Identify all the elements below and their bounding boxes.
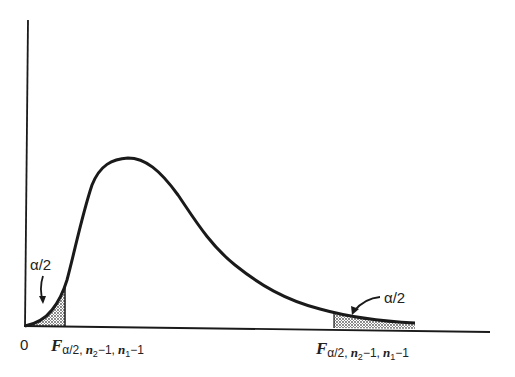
density-curve <box>25 158 415 326</box>
f-symbol: F <box>50 336 63 355</box>
f-symbol: F <box>315 339 328 358</box>
origin-label: 0 <box>20 336 28 353</box>
subscript-minus-one-end: −1 <box>395 346 409 360</box>
subscript-minus-one: −1, <box>363 346 380 360</box>
left-arrowhead-icon <box>39 296 46 304</box>
y-axis <box>25 20 28 327</box>
left-critical-value-label: Fα/2,n2−1,n1−1 <box>50 336 144 359</box>
subscript-n2: n <box>351 345 358 360</box>
subscript-minus-one-end: −1 <box>130 343 144 357</box>
subscript-n1: n <box>118 342 125 357</box>
left-tail-shaded-region <box>26 287 65 327</box>
svg-text:Fα/2,n2−1,n1−1: Fα/2,n2−1,n1−1 <box>50 336 144 359</box>
subscript-minus-one: −1, <box>98 343 115 357</box>
x-axis <box>24 326 490 332</box>
f-distribution-diagram: α/2 α/2 0 Fα/2,n2−1,n1−1 Fα/2,n2−1,n1−1 <box>0 0 515 377</box>
subscript-n2: n <box>86 342 93 357</box>
right-tail-area-label: α/2 <box>384 289 405 306</box>
subscript-n1: n <box>383 345 390 360</box>
right-critical-value-label: Fα/2,n2−1,n1−1 <box>315 339 409 362</box>
subscript-alpha: α/2, <box>327 346 347 360</box>
left-tail-area-label: α/2 <box>30 256 51 273</box>
svg-text:Fα/2,n2−1,n1−1: Fα/2,n2−1,n1−1 <box>315 339 409 362</box>
subscript-alpha: α/2, <box>62 343 82 357</box>
